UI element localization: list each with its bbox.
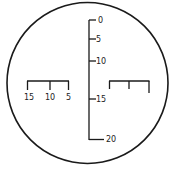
vertical-label-5: 5	[96, 35, 101, 44]
left-label-10: 10	[45, 93, 55, 102]
reticle-circle	[7, 3, 168, 164]
right-scale	[109, 81, 150, 93]
left-label-5: 5	[66, 93, 71, 102]
vertical-label-20: 20	[106, 135, 116, 144]
left-label-15: 15	[24, 93, 34, 102]
left-scale	[27, 81, 69, 90]
vertical-label-15: 15	[96, 95, 106, 104]
reticle-diagram: 0 5 10 15 20 15 10 5	[0, 0, 169, 173]
vertical-label-10: 10	[96, 57, 106, 66]
vertical-label-0: 0	[98, 16, 103, 25]
